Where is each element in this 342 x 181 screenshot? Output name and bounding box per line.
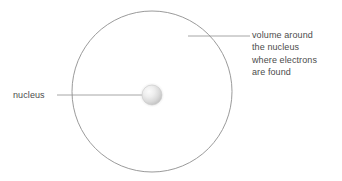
electron-volume-label-line-1: volume around bbox=[252, 29, 317, 41]
electron-volume-label: volume around the nucleus where electron… bbox=[252, 29, 317, 79]
atom-diagram-graphics bbox=[0, 0, 342, 181]
nucleus-label: nucleus bbox=[13, 89, 45, 101]
diagram-canvas: nucleus volume around the nucleus where … bbox=[0, 0, 342, 181]
nucleus-sphere bbox=[142, 85, 162, 105]
electron-volume-label-line-3: where electrons bbox=[252, 54, 317, 66]
electron-volume-label-line-4: are found bbox=[252, 66, 317, 78]
electron-volume-label-line-2: the nucleus bbox=[252, 41, 317, 53]
